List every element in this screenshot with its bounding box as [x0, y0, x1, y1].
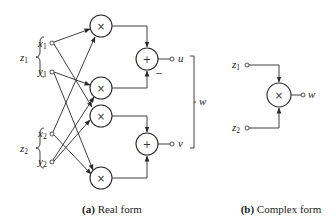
- y1-label: y1: [37, 65, 47, 79]
- multiplier-3: ×: [90, 105, 112, 127]
- multiplier-2: ×: [90, 77, 112, 99]
- real-form-diagram: z1 z2 x1 y1 x2 y2 ×: [19, 15, 207, 216]
- w-bracket: [190, 56, 196, 148]
- adder-2: +: [136, 133, 158, 155]
- complex-multiplier: ×: [267, 83, 291, 107]
- minus-sign: −: [155, 68, 163, 78]
- multiplier-4: ×: [90, 167, 112, 189]
- complex-form-diagram: z1 z2 × w (b) Complex form: [231, 58, 322, 216]
- x1-terminal: [50, 41, 54, 45]
- wire-m3-a2: [112, 116, 147, 132]
- y2-terminal: [50, 160, 54, 164]
- times-icon: ×: [97, 111, 105, 122]
- z1-input-label: z1: [231, 58, 240, 72]
- times-icon: ×: [97, 173, 105, 184]
- complex-multiplier-diagram: z1 z2 x1 y1 x2 y2 ×: [0, 0, 331, 221]
- wire-m4-a2: [112, 156, 147, 178]
- z1-label: z1: [19, 51, 28, 65]
- plus-icon: +: [143, 54, 151, 65]
- v-terminal: [170, 142, 174, 146]
- z2-terminal: [245, 126, 249, 130]
- z1-terminal: [245, 63, 249, 67]
- wire-x1-m1: [54, 29, 90, 42]
- x2-label: x2: [37, 127, 47, 141]
- w-label: w: [199, 95, 207, 107]
- multiplier-1: ×: [90, 15, 112, 37]
- z2-input-label: z2: [231, 121, 240, 135]
- z2-label: z2: [19, 142, 28, 156]
- w-terminal: [301, 93, 305, 97]
- wire-z2-mult: [249, 108, 279, 128]
- adder-1: + −: [136, 48, 163, 78]
- caption-complex-form: (b) Complex form: [241, 203, 322, 216]
- u-terminal: [170, 57, 174, 61]
- u-label: u: [178, 52, 184, 64]
- wire-m2-a1: [112, 71, 147, 88]
- wire-x1-m3: [54, 44, 92, 107]
- wire-m1-a1: [112, 26, 147, 47]
- wire-y2-m2: [53, 97, 94, 160]
- wire-z1-mult: [249, 65, 279, 82]
- x1-label: x1: [37, 37, 47, 51]
- times-icon: ×: [97, 21, 105, 32]
- plus-icon: +: [143, 139, 151, 150]
- w-output-label: w: [308, 88, 316, 100]
- y1-terminal: [50, 70, 54, 74]
- times-icon: ×: [97, 83, 105, 94]
- v-label: v: [178, 137, 183, 149]
- y2-label: y2: [37, 155, 47, 169]
- times-icon: ×: [275, 90, 283, 101]
- caption-real-form: (a) Real form: [82, 203, 142, 216]
- x2-terminal: [50, 132, 54, 136]
